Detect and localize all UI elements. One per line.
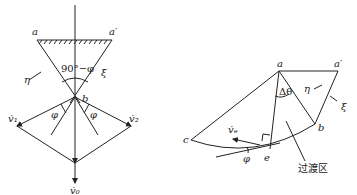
label-b: b	[318, 122, 324, 133]
label-a-prime: a′	[109, 26, 118, 37]
label-v1: v̇₁	[8, 113, 18, 124]
label-b: b	[82, 93, 88, 104]
hodograph-right	[75, 126, 131, 163]
label-transition-zone: 过渡区	[298, 162, 328, 174]
slip-arc	[191, 124, 315, 148]
eta-leader	[314, 85, 322, 89]
label-phi-left: φ	[51, 109, 58, 120]
label-phi: φ	[243, 153, 250, 164]
phi-arc-right	[84, 104, 89, 113]
left-figure: a a′ b η ξ 90°−φ φ φ v̇₁ v̇₂ v̇₀	[8, 5, 139, 195]
transition-zone-leader	[286, 121, 305, 161]
label-e: e	[264, 152, 270, 163]
label-a-prime: a′	[334, 58, 343, 69]
eta-line	[279, 71, 315, 124]
label-ve: v̇ₑ	[228, 124, 238, 135]
label-angle: 90°−φ	[61, 63, 94, 74]
hodograph-left	[17, 126, 75, 163]
label-a: a	[32, 26, 38, 37]
label-v0: v̇₀	[70, 185, 80, 195]
velocity-ve-arrow	[233, 139, 260, 145]
xi-line	[315, 71, 338, 124]
label-eta: η	[304, 83, 310, 94]
hatch-marks	[39, 40, 107, 44]
label-delta-theta: Δθ	[279, 86, 292, 97]
eta-leader	[29, 72, 41, 80]
label-v2: v̇₂	[129, 113, 139, 124]
label-a: a	[277, 58, 283, 69]
line-a-e	[270, 71, 279, 149]
label-phi-right: φ	[90, 109, 97, 120]
phi-arc-left	[61, 104, 66, 113]
label-c: c	[183, 134, 189, 145]
diagram-canvas: a a′ b η ξ 90°−φ φ φ v̇₁ v̇₂ v̇₀ a a′ b …	[0, 0, 357, 195]
label-eta: η	[24, 74, 30, 85]
label-xi: ξ	[341, 101, 347, 112]
right-figure: a a′ b c e η ξ Δθ φ v̇ₑ 过渡区	[183, 58, 347, 174]
label-xi: ξ	[101, 67, 107, 78]
xi-leader	[330, 96, 337, 101]
right-angle-mark	[262, 134, 270, 141]
